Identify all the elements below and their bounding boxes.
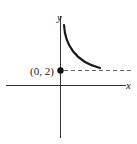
y-axis-label: y [56, 11, 62, 23]
y-intercept-point [57, 67, 63, 73]
function-graph: y x (0, 2) [0, 0, 137, 144]
point-label: (0, 2) [30, 65, 54, 78]
x-axis-label: x [125, 79, 131, 91]
function-curve [64, 25, 100, 68]
